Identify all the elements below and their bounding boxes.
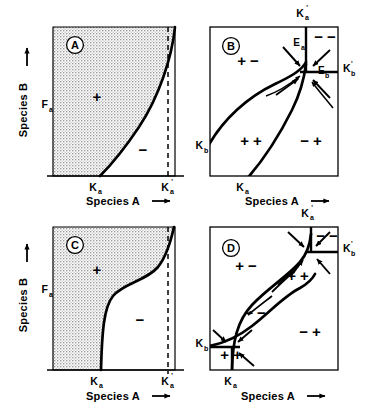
panel-letter-d: D [227, 242, 235, 254]
panel-a-y-title: Species B [17, 83, 29, 137]
e-b-label: E [318, 65, 325, 76]
k-a-prime-sub-b: a [305, 14, 309, 21]
k-a-prime-sub: a [170, 188, 174, 195]
k-b-label-d: K [195, 337, 203, 349]
panel-b-region-minus-minus: − − [314, 28, 336, 45]
k-b-sub-b: b [204, 147, 208, 154]
panel-a-x-title: Species A [86, 195, 140, 207]
panel-c-positive-sign: + [93, 261, 102, 278]
k-a-label-b: K [236, 181, 244, 193]
panel-d-letter-badge: D [223, 240, 240, 257]
k-a-prime-label-d: K [301, 207, 309, 219]
panel-b-region-plus-plus: + + [240, 132, 262, 149]
panel-a-negative-sign: − [139, 141, 148, 158]
panel-c-negative-sign: − [136, 311, 145, 328]
e-a-label: E [293, 37, 300, 48]
k-b-prime-sub-d: b [351, 250, 355, 257]
panel-d-region-minus-minus: − − [244, 304, 266, 321]
panel-d-region-plus-plus-lower: + + [220, 346, 242, 363]
k-a-prime-label: K [161, 181, 169, 193]
panel-b-region-minus-plus: − + [300, 132, 322, 149]
panel-letter-c: C [71, 239, 79, 251]
panel-b-region-plus-minus: + − [237, 52, 259, 69]
k-b-sub-d: b [204, 345, 208, 352]
panel-c-y-title: Species B [17, 278, 29, 332]
panel-c-letter-badge: C [67, 237, 84, 254]
k-a-prime-sub-d: a [310, 214, 314, 221]
figure-container: A + − F a K a K a ' Species A Species B [0, 0, 382, 409]
panel-d-region-plus-minus: + − [235, 257, 257, 274]
k-b-prime-label-d: K [343, 242, 351, 254]
competition-isocline-figure: A + − F a K a K a ' Species A Species B [0, 0, 382, 409]
k-a-label-c: K [90, 375, 98, 387]
panel-b-x-title: Species A [245, 195, 299, 207]
y-tick-sub: a [49, 106, 53, 113]
panel-d-region-minus-plus: − + [299, 323, 321, 340]
k-b-prime-sub-b: b [351, 70, 355, 77]
y-tick-label-c: F [42, 283, 49, 295]
panel-letter-b: B [227, 40, 235, 52]
k-a-sub: a [98, 188, 102, 195]
k-a-sub-d: a [233, 382, 237, 389]
k-a-prime-label-b: K [296, 7, 304, 19]
y-tick-label: F [42, 98, 49, 110]
k-b-label-b: K [195, 139, 203, 151]
k-a-prime-label-c: K [161, 375, 169, 387]
e-a-sub: a [301, 44, 305, 51]
k-a-label-d: K [224, 375, 232, 387]
panel-d-region-minus-minus-corner: − − [316, 227, 338, 244]
panel-a-letter-badge: A [67, 37, 84, 54]
e-b-sub: b [325, 72, 329, 79]
panel-a-positive-sign: + [93, 88, 102, 105]
panel-c-x-title: Species A [86, 390, 140, 402]
k-a-sub-b: a [245, 188, 249, 195]
panel-letter-a: A [71, 39, 79, 51]
k-a-sub-c: a [99, 382, 103, 389]
panel-d-x-title: Species A [241, 390, 295, 402]
panel-d-region-plus-plus-upper: + + [287, 267, 309, 284]
k-a-prime-sub-c: a [170, 382, 174, 389]
k-b-prime-label-b: K [343, 62, 351, 74]
k-a-label: K [89, 181, 97, 193]
y-tick-sub-c: a [49, 291, 53, 298]
